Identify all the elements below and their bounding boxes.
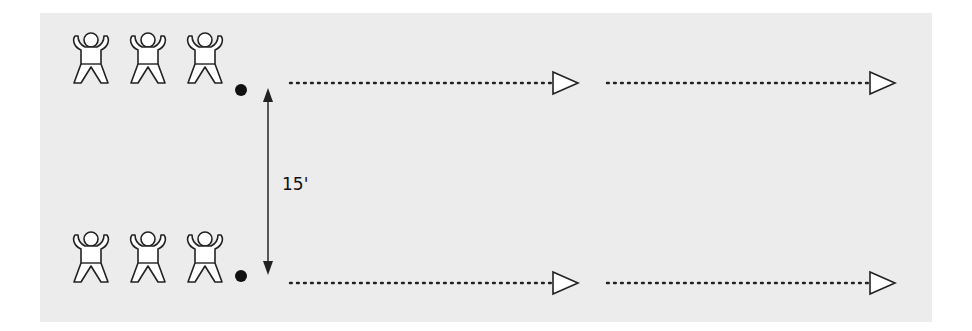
person-jumping-jack-icon — [131, 33, 166, 83]
triangle-arrow-icon — [870, 72, 895, 94]
drill-diagram — [0, 0, 972, 331]
person-jumping-jack-icon — [74, 232, 109, 282]
ball-icon — [235, 270, 247, 282]
double-headed-arrow-icon — [263, 88, 273, 275]
top-row-players — [74, 33, 247, 96]
top-row-arrows — [290, 72, 895, 94]
person-jumping-jack-icon — [188, 232, 223, 282]
distance-label: 15' — [282, 174, 308, 194]
triangle-arrow-icon — [553, 72, 578, 94]
person-jumping-jack-icon — [74, 33, 109, 83]
bottom-row-players — [74, 232, 247, 282]
person-jumping-jack-icon — [131, 232, 166, 282]
triangle-arrow-icon — [870, 272, 895, 294]
ball-icon — [235, 84, 247, 96]
bottom-row-arrows — [290, 272, 895, 294]
triangle-arrow-icon — [553, 272, 578, 294]
person-jumping-jack-icon — [188, 33, 223, 83]
